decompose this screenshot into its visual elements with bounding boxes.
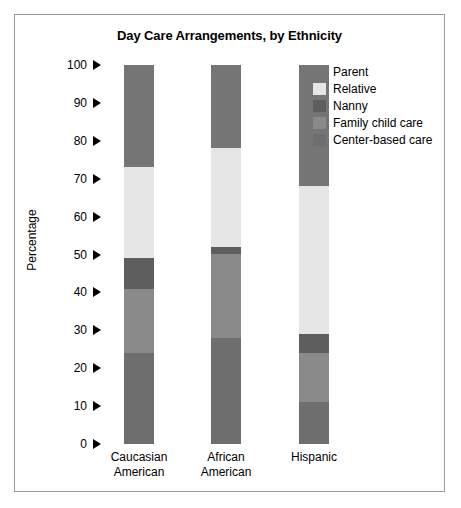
y-tick-label: 80 <box>74 135 87 147</box>
y-tick-40: 40 <box>33 285 101 299</box>
y-tick-label: 60 <box>74 211 87 223</box>
legend-label: Parent <box>333 66 368 78</box>
bar-segment-relative[interactable] <box>124 167 154 258</box>
x-label-hispanic: Hispanic <box>259 450 369 465</box>
bar-segment-parent[interactable] <box>211 65 241 148</box>
y-tick-label: 50 <box>74 249 87 261</box>
y-tick-90: 90 <box>33 96 101 110</box>
chart-legend: ParentRelativeNannyFamily child careCent… <box>313 63 441 148</box>
tick-arrow-icon <box>93 439 101 449</box>
legend-swatch-icon <box>313 117 326 129</box>
y-tick-label: 70 <box>74 173 87 185</box>
bar-segment-relative[interactable] <box>211 148 241 247</box>
tick-arrow-icon <box>93 363 101 373</box>
bar-segment-family-child-care[interactable] <box>124 289 154 353</box>
legend-label: Family child care <box>333 117 423 129</box>
legend-item-nanny[interactable]: Nanny <box>313 97 441 114</box>
y-tick-80: 80 <box>33 134 101 148</box>
y-tick-20: 20 <box>33 361 101 375</box>
legend-label: Relative <box>333 83 376 95</box>
bar-segment-nanny[interactable] <box>124 258 154 288</box>
legend-label: Center-based care <box>333 134 432 146</box>
chart-frame: Day Care Arrangements, by Ethnicity Perc… <box>14 14 445 492</box>
y-tick-label: 100 <box>67 59 87 71</box>
legend-item-family-child-care[interactable]: Family child care <box>313 114 441 131</box>
legend-swatch-icon <box>313 83 326 95</box>
bar-segment-family-child-care[interactable] <box>211 254 241 337</box>
bar-segment-center-based-care[interactable] <box>211 338 241 444</box>
bar-segment-center-based-care[interactable] <box>299 402 329 444</box>
y-tick-100: 100 <box>33 58 101 72</box>
y-tick-label: 20 <box>74 362 87 374</box>
y-tick-30: 30 <box>33 323 101 337</box>
bar-segment-relative[interactable] <box>299 186 329 334</box>
tick-arrow-icon <box>93 212 101 222</box>
bar-segment-family-child-care[interactable] <box>299 353 329 402</box>
bar-segment-nanny[interactable] <box>211 247 241 255</box>
legend-swatch-icon <box>313 134 326 146</box>
bar-segment-parent[interactable] <box>124 65 154 167</box>
bar-african-american[interactable] <box>211 65 241 444</box>
y-tick-10: 10 <box>33 399 101 413</box>
y-tick-70: 70 <box>33 172 101 186</box>
legend-item-relative[interactable]: Relative <box>313 80 441 97</box>
legend-item-center-based-care[interactable]: Center-based care <box>313 131 441 148</box>
bar-segment-nanny[interactable] <box>299 334 329 353</box>
tick-arrow-icon <box>93 174 101 184</box>
y-axis-title: Percentage <box>25 185 39 295</box>
tick-arrow-icon <box>93 250 101 260</box>
legend-label: Nanny <box>333 100 368 112</box>
bar-caucasian-american[interactable] <box>124 65 154 444</box>
tick-arrow-icon <box>93 401 101 411</box>
x-label-line: American <box>171 465 281 480</box>
legend-swatch-icon <box>313 100 326 112</box>
y-tick-label: 40 <box>74 286 87 298</box>
bar-segment-center-based-care[interactable] <box>124 353 154 444</box>
y-tick-60: 60 <box>33 210 101 224</box>
tick-arrow-icon <box>93 325 101 335</box>
x-label-line: Hispanic <box>259 450 369 465</box>
y-tick-50: 50 <box>33 248 101 262</box>
y-tick-label: 10 <box>74 400 87 412</box>
tick-arrow-icon <box>93 60 101 70</box>
y-tick-label: 90 <box>74 97 87 109</box>
tick-arrow-icon <box>93 98 101 108</box>
tick-arrow-icon <box>93 136 101 146</box>
tick-arrow-icon <box>93 287 101 297</box>
y-tick-label: 0 <box>80 438 87 450</box>
legend-swatch-icon <box>313 66 326 78</box>
y-tick-0: 0 <box>33 437 101 451</box>
legend-item-parent[interactable]: Parent <box>313 63 441 80</box>
y-tick-label: 30 <box>74 324 87 336</box>
